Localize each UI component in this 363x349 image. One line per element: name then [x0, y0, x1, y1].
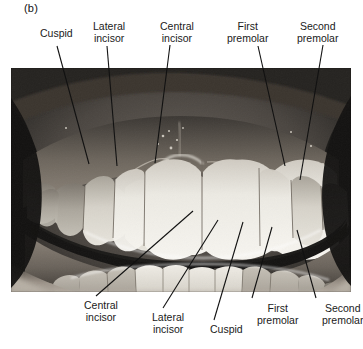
label-line-1: Lateral	[93, 21, 125, 33]
label-bottom-central-incisor: Centralincisor	[84, 300, 118, 323]
label-line-2: premolar	[297, 33, 338, 45]
label-line-2: incisor	[93, 33, 125, 45]
label-bottom-first-premolar: Firstpremolar	[257, 303, 298, 326]
label-top-central-incisor: Centralincisor	[160, 21, 194, 44]
figure-panel: (b)	[0, 0, 363, 349]
label-line-2: incisor	[160, 33, 194, 45]
label-bottom-cuspid: Cuspid	[210, 324, 243, 336]
label-line-1: Lateral	[152, 312, 184, 324]
label-top-cuspid: Cuspid	[40, 28, 73, 40]
label-line-1: Second	[322, 303, 363, 315]
label-line-1: Cuspid	[40, 28, 73, 40]
label-line-2: incisor	[84, 312, 118, 324]
panel-letter: (b)	[24, 2, 38, 14]
label-top-lateral-incisor: Lateralincisor	[93, 21, 125, 44]
dental-photograph	[11, 68, 351, 292]
label-line-1: Cuspid	[210, 324, 243, 336]
label-bottom-lateral-incisor: Lateralincisor	[152, 312, 184, 335]
label-line-2: premolar	[257, 315, 298, 327]
label-line-1: Central	[160, 21, 194, 33]
label-top-first-premolar: Firstpremolar	[227, 21, 268, 44]
label-line-2: incisor	[152, 324, 184, 336]
label-line-1: First	[257, 303, 298, 315]
label-top-second-premolar: Secondpremolar	[297, 21, 338, 44]
label-line-1: Second	[297, 21, 338, 33]
label-line-1: Central	[84, 300, 118, 312]
label-bottom-second-premolar: Secondpremolar	[322, 303, 363, 326]
label-line-2: premolar	[322, 315, 363, 327]
label-line-1: First	[227, 21, 268, 33]
label-line-2: premolar	[227, 33, 268, 45]
